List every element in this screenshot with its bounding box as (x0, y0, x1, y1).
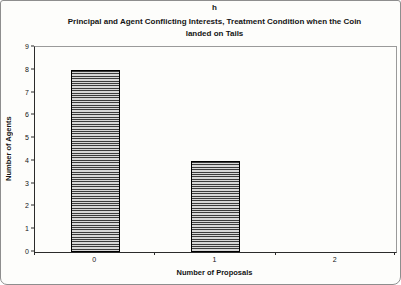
y-axis-tick-labels: 0123456789 (1, 46, 29, 251)
chart-title: Principal and Agent Conflicting Interest… (34, 16, 395, 40)
category-slot-1 (155, 47, 275, 252)
y-tick-label: 9 (25, 43, 29, 50)
x-tick-label: 2 (275, 256, 395, 263)
category-slot-2 (276, 47, 396, 252)
bar-category-0 (71, 70, 120, 252)
plot-area (34, 46, 397, 253)
x-axis-tick-labels: 012 (34, 256, 395, 263)
x-tick-mark (154, 252, 155, 255)
y-tick-label: 3 (25, 179, 29, 186)
x-tick-label: 0 (34, 256, 154, 263)
figure-header-label: h (34, 3, 395, 12)
x-tick-mark (275, 252, 276, 255)
y-tick-label: 7 (25, 88, 29, 95)
chart-title-line-1: Principal and Agent Conflicting Interest… (34, 16, 395, 28)
x-tick-mark (34, 252, 35, 255)
x-tick-mark (394, 252, 395, 255)
y-tick-label: 6 (25, 111, 29, 118)
x-axis-tick-marks (34, 252, 395, 255)
y-tick-label: 0 (25, 248, 29, 255)
y-tick-label: 8 (25, 65, 29, 72)
category-slot-0 (35, 47, 155, 252)
y-tick-label: 2 (25, 202, 29, 209)
y-tick-label: 5 (25, 134, 29, 141)
chart-figure: h Principal and Agent Conflicting Intere… (0, 0, 401, 285)
chart-title-line-2: landed on Tails (34, 28, 395, 40)
x-axis-title: Number of Proposals (34, 268, 395, 277)
y-tick-label: 1 (25, 225, 29, 232)
x-tick-label: 1 (154, 256, 274, 263)
y-tick-label: 4 (25, 156, 29, 163)
bar-category-1 (191, 161, 240, 252)
